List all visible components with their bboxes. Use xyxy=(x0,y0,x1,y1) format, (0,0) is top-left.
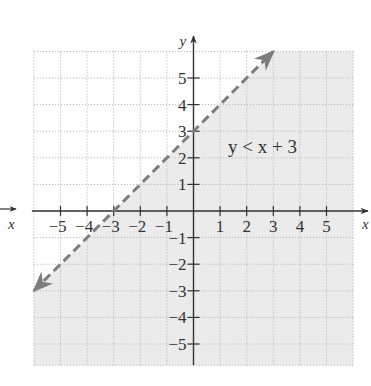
inequality-graph: xxy−5−4−3−2−112345−5−4−3−2−112345y < x +… xyxy=(0,0,371,386)
x-tick-label: 1 xyxy=(216,217,225,236)
y-tick-label: 4 xyxy=(178,96,187,115)
y-tick-label: −4 xyxy=(168,308,187,327)
inequality-label: y < x + 3 xyxy=(228,136,297,157)
y-tick-label: −5 xyxy=(168,335,186,354)
y-tick-label: 1 xyxy=(178,175,187,194)
x-tick-label: 2 xyxy=(242,217,251,236)
y-tick-label: −2 xyxy=(168,255,186,274)
x-tick-label: 4 xyxy=(296,217,305,236)
x-tick-label: −5 xyxy=(48,217,66,236)
x-tick-label: −2 xyxy=(128,217,146,236)
x-tick-label: 3 xyxy=(269,217,278,236)
y-tick-label: 2 xyxy=(178,149,187,168)
y-tick-label: −3 xyxy=(168,282,186,301)
x-axis-label-left: x xyxy=(7,216,15,232)
y-tick-label: −1 xyxy=(168,229,186,248)
x-axis-label: x xyxy=(361,216,369,232)
y-tick-label: 5 xyxy=(178,69,187,88)
y-axis-label: y xyxy=(178,33,187,49)
x-tick-label: 5 xyxy=(322,217,331,236)
x-tick-label: −4 xyxy=(75,217,94,236)
